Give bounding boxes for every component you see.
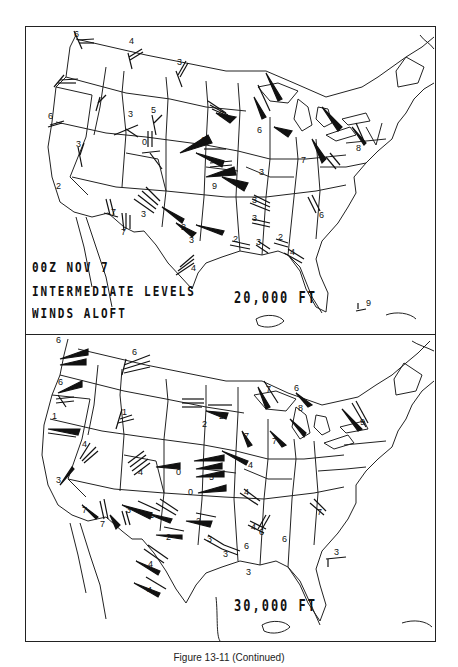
station-wind-value: 6	[74, 29, 79, 39]
station-wind-value: 2	[219, 411, 224, 421]
level-label-top: 20,000 FT	[234, 289, 317, 307]
station-wind-value: 9	[366, 298, 371, 308]
station-wind-value: 0	[188, 487, 193, 497]
figure-caption: Figure 13-11 (Continued)	[0, 652, 458, 663]
station-wind-value: 6	[294, 383, 299, 393]
station-wind-value: 3	[56, 475, 61, 485]
station-wind-value: 3	[246, 567, 251, 577]
station-wind-value: 3	[177, 57, 182, 67]
station-wind-value: 3	[76, 139, 81, 149]
map-panel-30000ft: 66611442276987740503773122443366764433 3…	[25, 334, 436, 642]
station-wind-value: 7	[272, 436, 277, 446]
title-line-2: INTERMEDIATE LEVELS	[32, 283, 196, 299]
station-values-bottom: 66611442276987740503773122443366764433	[52, 335, 365, 595]
station-wind-value: 6	[56, 335, 61, 345]
station-wind-value: 6	[257, 125, 262, 135]
station-wind-value: 4	[244, 487, 249, 497]
station-wind-value: 2	[181, 222, 186, 232]
station-wind-value: 2	[202, 419, 207, 429]
station-wind-value: 7	[244, 431, 249, 441]
station-wind-value: 7	[121, 227, 126, 237]
station-wind-value: 3	[141, 209, 146, 219]
station-wind-value: 3	[207, 534, 212, 544]
station-wind-value: 8	[356, 143, 361, 153]
station-wind-value: 4	[82, 439, 87, 449]
station-wind-value: 7	[317, 507, 322, 517]
station-wind-value: 4	[290, 247, 295, 257]
station-wind-value: 6	[319, 210, 324, 220]
station-wind-value: 7	[82, 505, 87, 515]
station-wind-value: 7	[111, 207, 116, 217]
title-line-3: WINDS ALOFT	[32, 305, 127, 321]
station-wind-value: 3	[252, 195, 257, 205]
station-wind-value: 0	[176, 467, 181, 477]
station-wind-value: 3	[128, 109, 133, 119]
station-wind-value: 8	[298, 403, 303, 413]
station-wind-value: 3	[252, 213, 257, 223]
station-wind-value: 2	[166, 532, 171, 542]
station-wind-value: 6	[282, 534, 287, 544]
station-wind-value: 1	[52, 411, 57, 421]
station-wind-value: 3	[334, 547, 339, 557]
station-wind-value: 3	[223, 549, 228, 559]
station-wind-value: 3	[259, 167, 264, 177]
station-wind-value: 7	[301, 155, 306, 165]
station-wind-value: 3	[256, 237, 261, 247]
level-label-bottom: 30,000 FT	[234, 597, 317, 615]
station-wind-value: 3	[219, 109, 224, 119]
station-wind-value: 0	[142, 137, 147, 147]
station-wind-value: 4	[148, 559, 153, 569]
time-label: 00Z NOV 7	[32, 259, 110, 275]
station-wind-value: 4	[251, 522, 256, 532]
map-panel-20000ft: 643635036687393277323332324649 00Z NOV 7…	[25, 26, 436, 335]
station-wind-value: 2	[233, 234, 238, 244]
station-wind-value: 3	[126, 505, 131, 515]
station-wind-value: 9	[360, 417, 365, 427]
station-wind-value: 9	[212, 181, 217, 191]
station-wind-value: 6	[58, 377, 63, 387]
station-wind-value: 6	[259, 527, 264, 537]
station-wind-value: 3	[189, 235, 194, 245]
station-wind-value: 7	[100, 519, 105, 529]
station-wind-value: 5	[151, 105, 156, 115]
station-wind-value: 1	[149, 510, 154, 520]
station-wind-value: 2	[196, 516, 201, 526]
station-wind-value: 6	[48, 111, 53, 121]
station-wind-value: 5	[209, 472, 214, 482]
station-wind-value: 2	[56, 181, 61, 191]
station-wind-value: 6	[201, 135, 206, 145]
station-wind-value: 4	[248, 460, 253, 470]
station-wind-value: 6	[132, 347, 137, 357]
us-outline-map-bottom: 66611442276987740503773122443366764433	[26, 335, 435, 641]
station-wind-value: 4	[138, 467, 143, 477]
station-wind-value: 4	[147, 585, 152, 595]
station-wind-value: 2	[278, 232, 283, 242]
station-wind-value: 1	[122, 407, 127, 417]
station-wind-value: 6	[244, 541, 249, 551]
station-wind-value: 7	[266, 384, 271, 394]
station-wind-value: 4	[129, 36, 134, 46]
station-wind-value: 4	[191, 263, 196, 273]
